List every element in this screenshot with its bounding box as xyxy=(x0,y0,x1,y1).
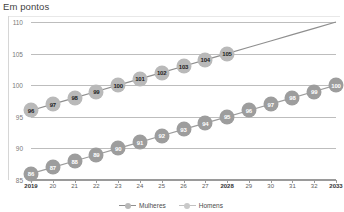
x-tick-label-24: 24 xyxy=(137,183,144,189)
x-tick-label-20: 20 xyxy=(49,183,56,189)
x-tick-label-29: 29 xyxy=(246,183,253,189)
legend-label: Mulheres xyxy=(139,202,166,209)
data-point-mulheres-27: 104 xyxy=(198,52,213,67)
y-tick-label-100: 100 xyxy=(1,82,23,89)
data-point-homens-20: 87 xyxy=(45,160,60,175)
data-point-homens-2033: 100 xyxy=(329,78,344,93)
x-tick-label-25: 25 xyxy=(158,183,165,189)
data-point-mulheres-24: 101 xyxy=(132,71,147,86)
data-point-homens-32: 99 xyxy=(307,84,322,99)
legend-marker-icon-homens xyxy=(179,202,196,209)
data-point-mulheres-23: 100 xyxy=(111,78,126,93)
legend-marker-icon-mulheres xyxy=(119,202,136,209)
data-point-homens-21: 88 xyxy=(67,154,82,169)
data-point-mulheres-21: 98 xyxy=(67,90,82,105)
data-point-mulheres-2028: 105 xyxy=(220,46,235,61)
x-tick-label-27: 27 xyxy=(202,183,209,189)
x-tick-label-32: 32 xyxy=(311,183,318,189)
y-tick-label-110: 110 xyxy=(1,19,23,26)
data-point-mulheres-20: 97 xyxy=(45,97,60,112)
data-point-homens-2028: 95 xyxy=(220,109,235,124)
x-tick-label-30: 30 xyxy=(267,183,274,189)
x-tick-label-22: 22 xyxy=(93,183,100,189)
legend-item-homens[interactable]: Homens xyxy=(179,202,223,209)
chart-legend: MulheresHomens xyxy=(0,202,342,209)
legend-label: Homens xyxy=(199,202,223,209)
y-tick-label-105: 105 xyxy=(1,50,23,57)
x-tick-label-23: 23 xyxy=(115,183,122,189)
data-point-homens-26: 93 xyxy=(176,122,191,137)
legend-item-mulheres[interactable]: Mulheres xyxy=(119,202,166,209)
data-point-homens-23: 90 xyxy=(111,141,126,156)
y-tick-label-95: 95 xyxy=(1,113,23,120)
data-point-homens-24: 91 xyxy=(132,135,147,150)
y-tick-label-90: 90 xyxy=(1,145,23,152)
data-point-homens-31: 98 xyxy=(285,90,300,105)
data-point-homens-22: 89 xyxy=(89,147,104,162)
x-tick-label-2019: 2019 xyxy=(24,183,37,189)
data-point-homens-30: 97 xyxy=(263,97,278,112)
x-tick-label-2033: 2033 xyxy=(329,183,342,189)
plot-area: 859095100105110 969798991001011021031041… xyxy=(31,22,336,180)
chart-title: Em pontos xyxy=(3,1,49,12)
data-point-homens-29: 96 xyxy=(241,103,256,118)
data-point-homens-25: 92 xyxy=(154,128,169,143)
data-point-mulheres-26: 103 xyxy=(176,59,191,74)
data-point-mulheres-25: 102 xyxy=(154,65,169,80)
x-tick-label-2028: 2028 xyxy=(220,183,233,189)
x-tick-label-21: 21 xyxy=(71,183,78,189)
y-tick-label-85: 85 xyxy=(1,177,23,184)
data-point-mulheres-22: 99 xyxy=(89,84,104,99)
data-point-mulheres-2019: 96 xyxy=(24,103,39,118)
data-point-homens-27: 94 xyxy=(198,116,213,131)
x-tick-label-31: 31 xyxy=(289,183,296,189)
x-tick-label-26: 26 xyxy=(180,183,187,189)
